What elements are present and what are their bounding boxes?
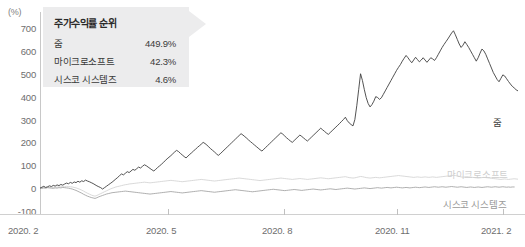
x-tick-2: 2020. 8 [262,225,292,236]
callout-row: 마이크로소프트42.3% [54,54,180,68]
callout-rows: 줌449.9%마이크로소프트42.3%시스코 시스템즈4.6% [54,36,180,86]
stock-return-line-chart: (%) 7006005004003002001000-100 2020. 220… [0,0,525,247]
y-tick-600: 600 [2,45,36,56]
callout-row-value: 4.6% [155,74,176,85]
x-tick-4: 2021. 2 [481,225,511,236]
y-tick-0: 0 [2,183,36,194]
callout-row-name: 줌 [54,36,63,50]
callout-row: 시스코 시스템즈4.6% [54,72,180,86]
x-axis-line [0,214,525,215]
callout-row-value: 449.9% [145,38,176,49]
y-tick-700: 700 [2,23,36,34]
x-tick-3: 2020. 11 [375,225,410,236]
x-tickmark-0 [30,209,31,215]
series-label-zoom: 줌 [493,115,502,129]
x-tick-1: 2020. 5 [146,225,176,236]
callout-title: 주가수익률 순위 [54,15,180,30]
callout-row-name: 마이크로소프트 [54,54,114,68]
y-tick-100: 100 [2,160,36,171]
callout-row: 줌449.9% [54,36,180,50]
y-tick-300: 300 [2,114,36,125]
y-tick-400: 400 [2,91,36,102]
y-tick-500: 500 [2,68,36,79]
callout-pointer [189,11,206,37]
ranking-callout-box: 주가수익률 순위 줌449.9%마이크로소프트42.3%시스코 시스템즈4.6% [43,7,189,87]
series-label-cisco: 시스코 시스템즈 [443,197,506,211]
series-label-microsoft: 마이크로소프트 [447,167,508,181]
y-tick-200: 200 [2,137,36,148]
callout-row-value: 42.3% [150,56,176,67]
callout-row-name: 시스코 시스템즈 [54,72,116,86]
x-tick-0: 2020. 2 [8,225,38,236]
